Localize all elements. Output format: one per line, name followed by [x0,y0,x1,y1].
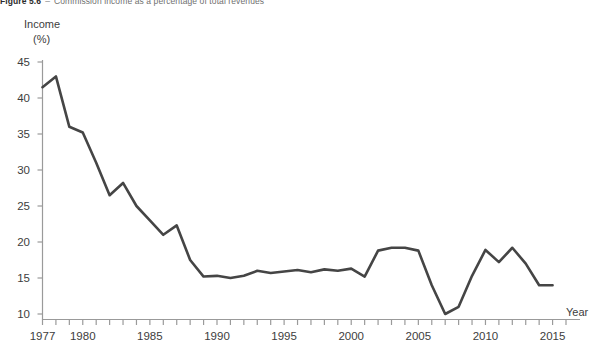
y-tick-label: 30 [0,164,30,176]
x-tick-label: 1980 [63,330,103,342]
axis-lines [43,60,581,320]
x-tick-label: 1995 [264,330,304,342]
x-tick-label: 2000 [331,330,371,342]
y-tick-label-text: 35 [4,128,30,140]
x-tick-label: 2010 [465,330,505,342]
y-tick-label: 40 [0,92,30,104]
plot-canvas [0,0,594,352]
y-axis-unit: (%) [33,33,50,45]
y-tick-label-text: 25 [4,200,30,212]
y-axis-ticks [38,62,43,314]
y-tick-label-text: 20 [4,236,30,248]
data-series-line [43,76,553,314]
y-tick-label: 15 [0,272,30,284]
y-axis-title: Income [24,18,60,30]
line-chart: Income (%) Year 1015202530354045 1977198… [0,0,594,352]
y-tick-label: 10 [0,308,30,320]
y-tick-label-text: 40 [4,92,30,104]
x-tick-label: 2015 [533,330,573,342]
y-tick-label-text: 10 [4,308,30,320]
x-tick-label: 1977 [23,330,63,342]
y-tick-label: 45 [0,56,30,68]
x-tick-label: 2005 [398,330,438,342]
y-tick-label: 20 [0,236,30,248]
x-axis-title: Year [566,306,588,318]
x-tick-label: 1990 [197,330,237,342]
x-axis-ticks [43,320,567,326]
y-tick-label-text: 45 [4,56,30,68]
y-tick-label-text: 30 [4,164,30,176]
y-tick-label: 35 [0,128,30,140]
x-tick-label: 1985 [130,330,170,342]
y-tick-label: 25 [0,200,30,212]
y-tick-label-text: 15 [4,272,30,284]
